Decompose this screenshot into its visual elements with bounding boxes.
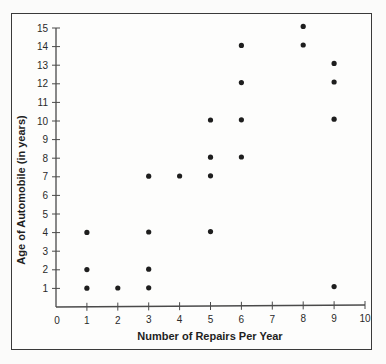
data-point bbox=[177, 173, 182, 178]
data-point bbox=[146, 174, 151, 179]
data-point bbox=[332, 61, 337, 66]
y-tick-label: 6 bbox=[42, 190, 48, 201]
data-point bbox=[332, 284, 337, 289]
data-point bbox=[208, 155, 213, 160]
data-points bbox=[84, 24, 336, 291]
y-tick-label: 15 bbox=[37, 23, 49, 34]
y-tick-label: 9 bbox=[42, 134, 48, 145]
data-point bbox=[239, 117, 244, 122]
data-point bbox=[332, 117, 337, 122]
y-tick-label: 2 bbox=[42, 264, 48, 275]
data-point bbox=[208, 173, 213, 178]
y-tick-label: 14 bbox=[37, 41, 49, 52]
data-point bbox=[146, 229, 151, 234]
data-point bbox=[146, 267, 151, 272]
data-point bbox=[146, 285, 151, 290]
y-tick-label: 1 bbox=[42, 283, 48, 294]
data-point bbox=[84, 286, 89, 291]
data-point bbox=[208, 229, 213, 234]
data-point bbox=[301, 24, 306, 29]
x-tick-label: 3 bbox=[146, 314, 152, 325]
x-tick-label: 7 bbox=[270, 314, 276, 325]
data-point bbox=[239, 43, 244, 48]
axes bbox=[56, 28, 365, 307]
x-tick-label: 1 bbox=[84, 315, 90, 326]
x-tick-label: 10 bbox=[359, 313, 371, 324]
y-tick-label: 4 bbox=[42, 227, 48, 238]
x-tick-label: 2 bbox=[115, 315, 121, 326]
y-tick-label: 10 bbox=[37, 116, 49, 127]
x-axis-title: Number of Repairs Per Year bbox=[137, 330, 283, 342]
x-tick-label: 0 bbox=[54, 315, 60, 326]
y-tick-label: 3 bbox=[42, 246, 48, 257]
x-tick-label: 6 bbox=[239, 314, 245, 325]
data-point bbox=[301, 42, 306, 47]
data-point bbox=[208, 117, 213, 122]
y-tick-label: 13 bbox=[37, 60, 49, 71]
data-point bbox=[115, 285, 120, 290]
data-point bbox=[332, 79, 337, 84]
data-point bbox=[239, 80, 244, 85]
y-tick-label: 5 bbox=[42, 209, 48, 220]
data-point bbox=[84, 267, 89, 272]
x-tick-label: 8 bbox=[300, 313, 306, 324]
x-tick-label: 9 bbox=[331, 313, 337, 324]
y-tick-label: 11 bbox=[38, 97, 49, 108]
scatter-plot: 012345678910 123456789101112131415 Numbe… bbox=[0, 0, 386, 364]
x-tick-label: 5 bbox=[208, 314, 214, 325]
y-tick-label: 8 bbox=[42, 153, 48, 164]
data-point bbox=[84, 230, 89, 235]
y-axis-title: Age of Automobile (in years) bbox=[15, 115, 27, 265]
y-tick-label: 7 bbox=[42, 171, 48, 182]
data-point bbox=[239, 154, 244, 159]
y-tick-label: 12 bbox=[37, 78, 49, 89]
x-tick-label: 4 bbox=[177, 314, 183, 325]
